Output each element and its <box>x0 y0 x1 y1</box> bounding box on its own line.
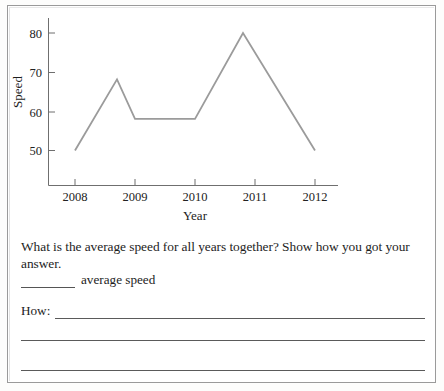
x-axis-ticks <box>75 179 315 186</box>
average-speed-input-blank[interactable] <box>21 275 75 288</box>
y-axis-title: Speed <box>10 76 25 108</box>
speed-line-chart: 80 70 60 50 2008 2009 2010 2011 2012 <box>8 6 368 228</box>
x-axis-title: Year <box>183 208 208 223</box>
x-tick-label: 2008 <box>63 190 88 204</box>
y-tick-label: 50 <box>30 144 43 158</box>
x-tick-label: 2010 <box>183 190 208 204</box>
x-axis-tick-labels: 2008 2009 2010 2011 2012 <box>63 190 328 204</box>
speed-data-line <box>75 33 315 151</box>
x-tick-label: 2012 <box>303 190 328 204</box>
chart-svg: 80 70 60 50 2008 2009 2010 2011 2012 <box>8 6 368 228</box>
question-text: What is the average speed for all years … <box>21 238 425 272</box>
y-tick-label: 80 <box>30 27 43 41</box>
how-label: How: <box>21 303 50 319</box>
how-answer-row: How: <box>21 303 425 319</box>
y-tick-label: 60 <box>30 106 43 120</box>
average-speed-answer-row: average speed <box>21 272 401 288</box>
y-axis-ticks <box>49 33 56 151</box>
answer-line-1[interactable] <box>55 307 425 319</box>
answer-line-3[interactable] <box>21 370 425 371</box>
worksheet-page: 80 70 60 50 2008 2009 2010 2011 2012 <box>0 0 444 391</box>
x-tick-label: 2011 <box>243 190 268 204</box>
y-axis-tick-labels: 80 70 60 50 <box>30 27 43 159</box>
y-tick-label: 70 <box>30 66 43 80</box>
answer-line-2[interactable] <box>21 340 425 341</box>
x-tick-label: 2009 <box>123 190 148 204</box>
average-speed-label: average speed <box>81 272 155 288</box>
